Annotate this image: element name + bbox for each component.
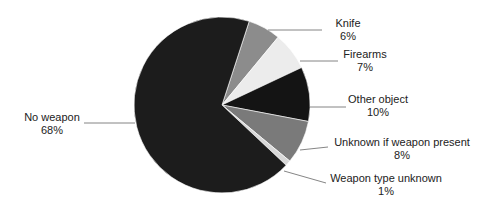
label-firearms-name: Firearms (340, 48, 390, 61)
label-other-object: Other object 10% (346, 93, 410, 119)
label-type-unknown-name: Weapon type unknown (330, 172, 442, 185)
label-knife-name: Knife (326, 17, 370, 30)
label-unknown-if-weapon-present: Unknown if weapon present 8% (334, 136, 470, 162)
leader-type-unknown (284, 171, 326, 183)
label-knife: Knife 6% (326, 17, 370, 43)
label-firearms: Firearms 7% (340, 48, 390, 74)
label-type-unknown-pct: 1% (330, 185, 442, 198)
label-unknown-present-name: Unknown if weapon present (334, 136, 470, 149)
label-no-weapon-name: No weapon (22, 111, 82, 124)
label-other-pct: 10% (346, 106, 410, 119)
label-other-name: Other object (346, 93, 410, 106)
label-weapon-type-unknown: Weapon type unknown 1% (330, 172, 442, 198)
label-unknown-present-pct: 8% (334, 149, 470, 162)
label-no-weapon: No weapon 68% (22, 111, 82, 137)
label-knife-pct: 6% (326, 30, 370, 43)
pie-slices (134, 17, 310, 193)
label-firearms-pct: 7% (340, 61, 390, 74)
leader-unknown-present (300, 147, 328, 150)
label-no-weapon-pct: 68% (22, 124, 82, 137)
